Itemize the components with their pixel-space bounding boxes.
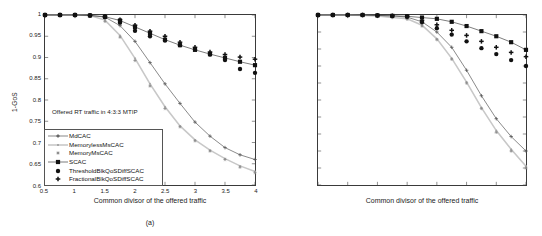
- panel-a: 1-GoS 0.60.650.70.750.80.850.90.951 0.51…: [0, 0, 271, 236]
- legend-item: MemorylessMsCAC: [47, 141, 159, 150]
- legend-label: ThresholdBlkQoSDiffSCAC: [69, 167, 144, 175]
- y-tick: 1: [20, 11, 41, 17]
- y-tick: 0.65: [20, 161, 41, 167]
- panel-b: 1-GoS 0.80.820.840.860.880.90.920.940.96…: [271, 0, 542, 236]
- y-tick: 0.75: [20, 118, 41, 124]
- caption-a: (a): [120, 219, 180, 226]
- legend-label: SCAC: [69, 158, 86, 166]
- legend-item: SCAC: [47, 158, 159, 167]
- x-tick: 0.5: [33, 188, 55, 194]
- x-axis-label-a: Common divisor of the offered traffic: [44, 197, 256, 204]
- legend-marker-circle-filled-icon: [47, 167, 69, 175]
- x-tick: 1: [63, 188, 85, 194]
- x-tick: 3.5: [215, 188, 237, 194]
- x-tick: 2.5: [154, 188, 176, 194]
- legend-label: MemorylessMsCAC: [69, 141, 124, 149]
- legend-marker-dot-small-icon: [47, 141, 69, 149]
- legend-a: MdCACMemorylessMsCACMemoryMsCACSCACThres…: [44, 129, 163, 186]
- legend-item: MemoryMsCAC: [47, 149, 159, 158]
- y-tick: 0.85: [20, 75, 41, 81]
- x-tick: 1.5: [94, 188, 116, 194]
- x-tick: 4: [245, 188, 267, 194]
- legend-label: FractionalBlkQoSDiffSCAC: [69, 175, 144, 183]
- plot-canvas-b: [318, 15, 526, 185]
- x-tick: 2: [124, 188, 146, 194]
- legend-marker-plus-line-icon: [47, 132, 69, 140]
- legend-item: FractionalBlkQoSDiffSCAC: [47, 175, 159, 184]
- legend-item: MdCAC: [47, 132, 159, 141]
- legend-marker-star-small-icon: [47, 149, 69, 157]
- legend-label: MdCAC: [69, 132, 91, 140]
- legend-label: MemoryMsCAC: [69, 149, 113, 157]
- y-axis-label-a: 1-GoS: [11, 92, 18, 112]
- plot-area-b: [317, 14, 527, 186]
- x-axis-label-b: Common divisor of the offered traffic: [317, 197, 527, 204]
- annotation-a: Offered RT traffic in 4:3:3 MTIP: [52, 108, 138, 115]
- y-tick: 0.7: [20, 140, 41, 146]
- legend-item: ThresholdBlkQoSDiffSCAC: [47, 166, 159, 175]
- legend-marker-plus-bold-icon: [47, 175, 69, 183]
- figure-two-panel-plots: 1-GoS 0.60.650.70.750.80.850.90.951 0.51…: [0, 0, 542, 236]
- legend-marker-square-line-icon: [47, 158, 69, 166]
- y-tick: 0.8: [20, 97, 41, 103]
- y-tick: 0.95: [20, 32, 41, 38]
- y-tick: 0.9: [20, 54, 41, 60]
- x-tick: 3: [184, 188, 206, 194]
